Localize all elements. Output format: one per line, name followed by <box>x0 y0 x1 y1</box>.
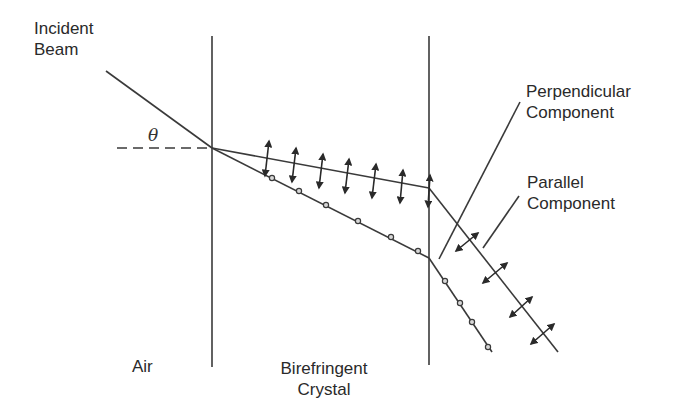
parallel-polarization-dots <box>269 175 490 349</box>
parallel-leader-line <box>483 196 519 248</box>
parallel-ray-in-crystal <box>212 148 429 258</box>
birefringence-diagram <box>0 0 686 417</box>
incident-ray <box>106 71 212 148</box>
perpendicular-leader-line <box>439 102 520 259</box>
perpendicular-exit-ray <box>429 188 558 352</box>
vertical-polarization-arrows <box>265 141 430 207</box>
